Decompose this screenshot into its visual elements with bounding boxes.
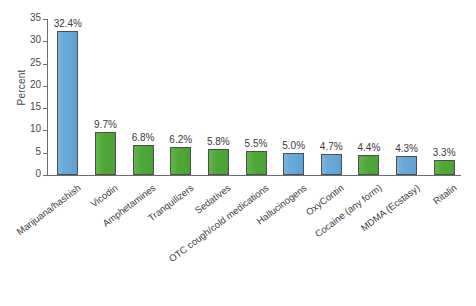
bar: 4.7% — [321, 154, 342, 175]
bar: 4.3% — [396, 156, 417, 175]
bar: 4.4% — [358, 155, 379, 175]
y-tick-label: 15 — [30, 101, 41, 112]
bar-value-label: 6.8% — [132, 132, 155, 143]
bar-value-label: 4.7% — [320, 141, 343, 152]
y-tick-label: 10 — [30, 123, 41, 134]
bar-chart: Percent 05101520253035 32.4%9.7%6.8%6.2%… — [0, 0, 476, 306]
bar: 6.2% — [170, 147, 191, 175]
y-axis-title: Percent — [16, 58, 27, 118]
y-tick-mark — [43, 175, 48, 176]
bar: 5.0% — [283, 153, 304, 175]
bar: 32.4% — [57, 31, 78, 175]
bar: 3.3% — [434, 160, 455, 175]
x-axis-label-text: Marijuana/hashish — [14, 182, 82, 237]
y-tick-label: 35 — [30, 12, 41, 23]
y-tick-label: 20 — [30, 79, 41, 90]
y-tick-mark — [43, 19, 48, 20]
y-tick-mark — [43, 64, 48, 65]
bar: 6.8% — [133, 145, 154, 175]
x-axis-line — [47, 175, 461, 176]
y-tick-mark — [43, 130, 48, 131]
x-axis-label-text: Ritalin — [431, 182, 459, 207]
y-tick-label: 0 — [35, 168, 41, 179]
plot-area: 05101520253035 32.4%9.7%6.8%6.2%5.8%5.5%… — [47, 19, 461, 176]
bar: 5.8% — [208, 149, 229, 175]
x-axis-label-text: Cocaine (any form) — [312, 182, 383, 239]
y-tick-mark — [43, 86, 48, 87]
bar-value-label: 32.4% — [54, 18, 82, 29]
bar: 9.7% — [95, 132, 116, 175]
bar: 5.5% — [246, 151, 267, 176]
y-tick-mark — [43, 41, 48, 42]
bar-value-label: 9.7% — [94, 119, 117, 130]
y-tick-mark — [43, 108, 48, 109]
bar-value-label: 5.0% — [282, 140, 305, 151]
bar-value-label: 5.8% — [207, 136, 230, 147]
bar-value-label: 4.4% — [358, 142, 381, 153]
bar-value-label: 5.5% — [245, 138, 268, 149]
bar-value-label: 3.3% — [433, 147, 456, 158]
y-tick-mark — [43, 153, 48, 154]
x-axis-label-text: Vicodin — [89, 182, 120, 209]
y-tick-label: 5 — [35, 146, 41, 157]
y-tick-label: 30 — [30, 34, 41, 45]
bar-value-label: 6.2% — [169, 134, 192, 145]
y-tick-label: 25 — [30, 57, 41, 68]
bar-value-label: 4.3% — [395, 143, 418, 154]
